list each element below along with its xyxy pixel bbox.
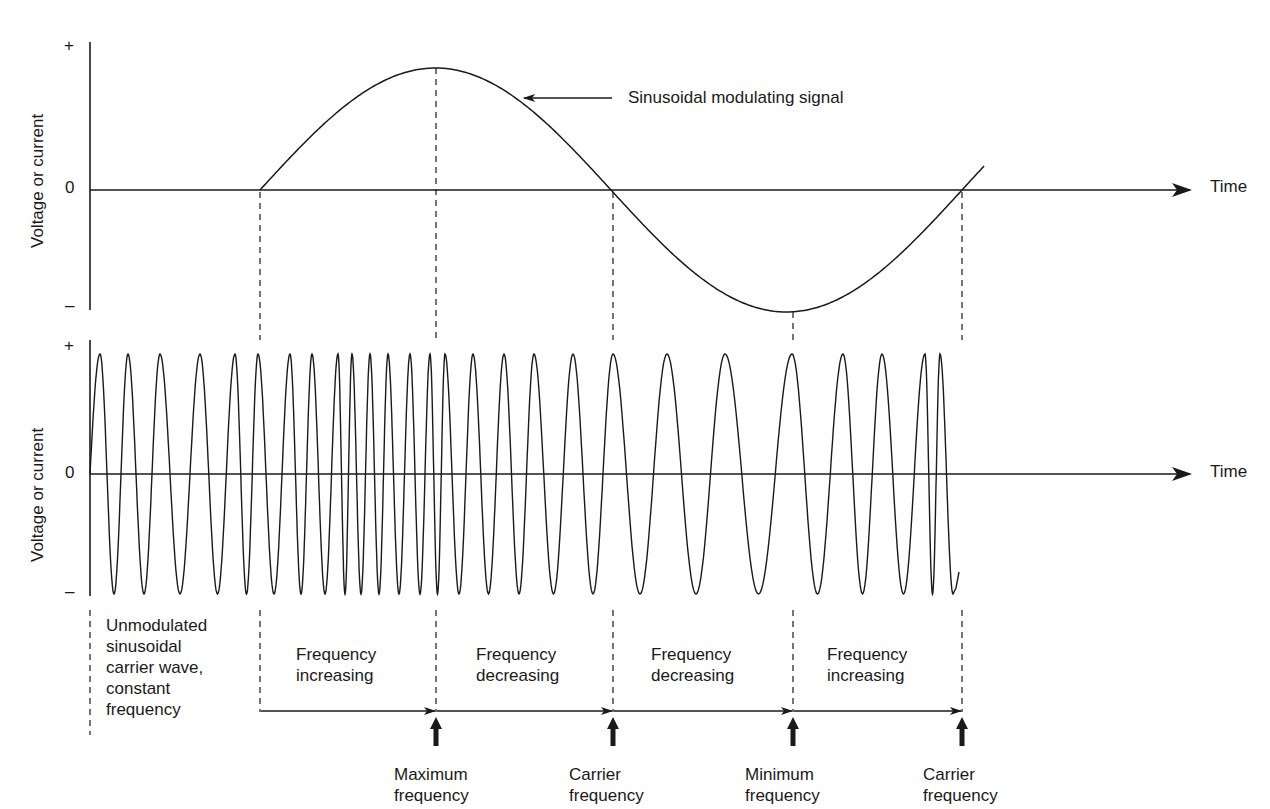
up-arrow-icon bbox=[956, 717, 968, 746]
bottom-zero-tick: 0 bbox=[65, 463, 74, 483]
top-plus-tick: + bbox=[64, 36, 74, 56]
up-arrow-icon bbox=[430, 717, 442, 746]
region-label-freq-decreasing-1: Frequency decreasing bbox=[476, 644, 559, 686]
top-y-axis-label: Voltage or current bbox=[28, 114, 48, 248]
top-zero-tick: 0 bbox=[65, 178, 74, 198]
region-label-unmodulated: Unmodulated sinusoidal carrier wave, con… bbox=[106, 615, 207, 720]
point-label-minimum-frequency: Minimum frequency bbox=[745, 764, 820, 806]
region-label-freq-decreasing-2: Frequency decreasing bbox=[651, 644, 734, 686]
bottom-time-label: Time bbox=[1210, 461, 1247, 482]
top-minus-tick: – bbox=[65, 296, 74, 316]
top-panel bbox=[90, 42, 1190, 312]
bottom-plus-tick: + bbox=[64, 336, 74, 356]
frequency-span-arrows bbox=[261, 711, 968, 746]
bottom-panel bbox=[90, 340, 1190, 596]
point-label-carrier-frequency-2: Carrier frequency bbox=[923, 764, 998, 806]
bottom-minus-tick: – bbox=[65, 582, 74, 602]
region-label-freq-increasing-2: Frequency increasing bbox=[827, 644, 907, 686]
bottom-y-axis-label: Voltage or current bbox=[28, 428, 48, 562]
modulating-signal-label: Sinusoidal modulating signal bbox=[628, 87, 843, 108]
top-time-label: Time bbox=[1210, 176, 1247, 197]
region-label-freq-increasing-1: Frequency increasing bbox=[296, 644, 376, 686]
point-label-maximum-frequency: Maximum frequency bbox=[394, 764, 469, 806]
dashed-marker-lines bbox=[90, 68, 962, 735]
up-arrow-icon bbox=[607, 717, 619, 746]
up-arrow-icon bbox=[787, 717, 799, 746]
point-label-carrier-frequency-1: Carrier frequency bbox=[569, 764, 644, 806]
